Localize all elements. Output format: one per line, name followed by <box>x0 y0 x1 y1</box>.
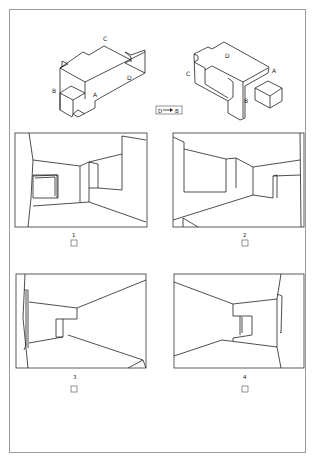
option-3-panel <box>16 274 146 368</box>
object-left-label-d: D <box>127 74 132 81</box>
option-4-panel <box>174 274 304 368</box>
option-3-number: 3 <box>73 374 77 380</box>
option-2-checkbox[interactable] <box>242 240 248 246</box>
object-left: C D B A <box>52 35 145 117</box>
option-2-panel <box>173 133 304 227</box>
option-3-checkbox[interactable] <box>71 386 77 392</box>
object-right: D C A B <box>186 42 282 120</box>
object-right-label-c: C <box>186 70 190 77</box>
transform-from: D <box>158 108 162 114</box>
transform-label: D B <box>156 106 182 114</box>
option-3-answer[interactable]: 3 <box>71 374 77 392</box>
object-left-label-a: A <box>93 91 98 98</box>
puzzle-figure: C D B A D C A B D B <box>0 0 314 461</box>
option-2-answer[interactable]: 2 <box>242 232 248 246</box>
object-left-label-b: B <box>52 87 56 94</box>
object-right-label-b: B <box>244 97 248 104</box>
option-1-panel <box>15 133 147 227</box>
option-4-answer[interactable]: 4 <box>242 374 248 392</box>
option-1-answer[interactable]: 1 <box>71 232 77 246</box>
option-2-number: 2 <box>243 232 247 238</box>
transform-to: B <box>175 108 179 114</box>
option-1-checkbox[interactable] <box>71 240 77 246</box>
object-left-label-c: C <box>103 35 107 42</box>
object-right-label-d: D <box>225 52 230 59</box>
option-4-checkbox[interactable] <box>242 386 248 392</box>
object-right-label-a: A <box>272 67 277 74</box>
option-4-number: 4 <box>243 374 247 380</box>
option-1-number: 1 <box>72 232 76 238</box>
